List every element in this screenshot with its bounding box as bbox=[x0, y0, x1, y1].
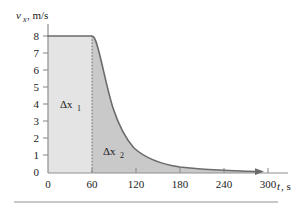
y-tick-label-5: 5 bbox=[34, 81, 40, 93]
y-tick-label-3: 3 bbox=[34, 115, 40, 127]
delta-x1-label-subscript: 1 bbox=[77, 104, 81, 113]
y-axis-title: v x , m/s bbox=[16, 9, 48, 24]
y-axis-ticks bbox=[43, 36, 48, 155]
y-axis-title-units: , m/s bbox=[27, 9, 48, 21]
y-tick-label-4: 4 bbox=[34, 98, 40, 110]
y-tick-label-7: 7 bbox=[34, 47, 40, 59]
y-tick-label-0: 0 bbox=[34, 166, 40, 178]
velocity-time-chart-figure: 8 7 6 5 4 3 2 1 0 0 60 120 180 240 300 v… bbox=[0, 0, 292, 211]
delta-x2-label-subscript: 2 bbox=[120, 151, 124, 160]
x-tick-label-240: 240 bbox=[216, 178, 233, 190]
chart-canvas: 8 7 6 5 4 3 2 1 0 0 60 120 180 240 300 v… bbox=[0, 0, 292, 211]
x-tick-label-0: 0 bbox=[45, 178, 51, 190]
delta-x2-label-main: Δx bbox=[103, 145, 116, 157]
delta-x1-label-main: Δx bbox=[60, 98, 73, 110]
y-tick-label-1: 1 bbox=[34, 149, 40, 161]
y-tick-label-8: 8 bbox=[34, 30, 40, 42]
x-tick-label-120: 120 bbox=[128, 178, 145, 190]
x-tick-label-300: 300 bbox=[260, 178, 277, 190]
x-axis-title: t , s bbox=[277, 180, 291, 192]
x-tick-label-60: 60 bbox=[87, 178, 99, 190]
y-tick-label-2: 2 bbox=[34, 132, 40, 144]
y-tick-label-6: 6 bbox=[34, 64, 40, 76]
delta-x2-area bbox=[92, 36, 262, 173]
x-axis-title-units: , s bbox=[281, 180, 291, 192]
x-tick-label-180: 180 bbox=[172, 178, 189, 190]
y-axis-title-v: v bbox=[16, 9, 21, 21]
arrowhead-icon bbox=[255, 168, 264, 175]
